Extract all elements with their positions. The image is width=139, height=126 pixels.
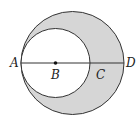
label-a: A [9,56,19,70]
label-b: B [50,68,60,82]
center-point-b [54,61,58,65]
label-c: C [96,68,105,82]
label-d: D [125,56,136,70]
geometry-diagram: A B C D [0,0,139,126]
